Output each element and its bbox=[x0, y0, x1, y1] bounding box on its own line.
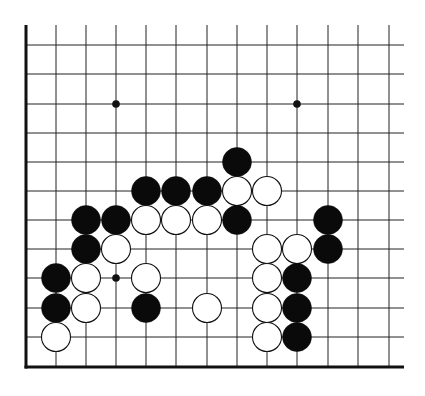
white-stone bbox=[102, 235, 131, 264]
white-stone bbox=[253, 177, 282, 206]
black-stone bbox=[72, 235, 101, 264]
white-stone bbox=[253, 323, 282, 352]
black-stone bbox=[314, 235, 343, 264]
black-stone bbox=[42, 294, 71, 323]
black-stone bbox=[283, 323, 312, 352]
black-stone bbox=[193, 177, 222, 206]
black-stone bbox=[102, 206, 131, 235]
star-point-icon bbox=[112, 274, 120, 282]
white-stone bbox=[162, 206, 191, 235]
black-stone bbox=[162, 177, 191, 206]
white-stone bbox=[132, 206, 161, 235]
black-stone bbox=[72, 206, 101, 235]
white-stone bbox=[72, 294, 101, 323]
black-stone bbox=[314, 206, 343, 235]
go-board bbox=[0, 0, 425, 396]
white-stone bbox=[253, 294, 282, 323]
black-stone bbox=[42, 264, 71, 293]
white-stone bbox=[193, 294, 222, 323]
star-point-icon bbox=[293, 100, 301, 108]
black-stone bbox=[132, 177, 161, 206]
white-stone bbox=[283, 235, 312, 264]
white-stone bbox=[72, 264, 101, 293]
white-stone bbox=[42, 323, 71, 352]
black-stone bbox=[283, 264, 312, 293]
white-stone bbox=[253, 235, 282, 264]
black-stone bbox=[223, 206, 252, 235]
black-stone bbox=[132, 294, 161, 323]
star-point-icon bbox=[112, 100, 120, 108]
black-stone bbox=[283, 294, 312, 323]
white-stone bbox=[253, 264, 282, 293]
white-stone bbox=[223, 177, 252, 206]
black-stone bbox=[223, 148, 252, 177]
white-stone bbox=[132, 264, 161, 293]
white-stone bbox=[193, 206, 222, 235]
